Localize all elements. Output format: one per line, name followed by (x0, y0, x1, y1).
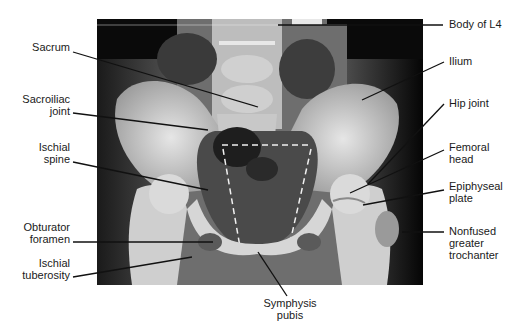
label-ischial-spine: Ischial spine (10, 141, 70, 165)
label-obturator-foramen: Obturator foramen (10, 221, 70, 245)
label-text-line2: joint (10, 105, 70, 117)
label-ilium: Ilium (449, 55, 472, 67)
label-text: Sacrum (32, 41, 70, 53)
label-text-line2: plate (449, 192, 503, 204)
label-text-line2: spine (10, 153, 70, 165)
label-text-line1: Obturator (10, 221, 70, 233)
label-text-line1: Femoral (449, 141, 489, 153)
label-text-line2: head (449, 153, 489, 165)
label-text-line1: Ischial (10, 257, 70, 269)
label-epiphyseal-plate: Epiphyseal plate (449, 180, 503, 204)
label-text-line1: Epiphyseal (449, 180, 503, 192)
pelvis-radiograph (97, 19, 423, 285)
label-text: Hip joint (449, 97, 489, 109)
label-text: Body of L4 (449, 18, 502, 30)
label-hip-joint: Hip joint (449, 97, 489, 109)
label-ischial-tuberosity: Ischial tuberosity (10, 257, 70, 281)
label-text-line2: pubis (250, 309, 330, 321)
label-sacroiliac-joint: Sacroiliac joint (10, 93, 70, 117)
label-femoral-head: Femoral head (449, 141, 489, 165)
label-text: Ilium (449, 55, 472, 67)
label-text-line2: greater (449, 237, 499, 249)
label-sacrum: Sacrum (20, 41, 70, 53)
label-text-line3: trochanter (449, 249, 499, 261)
label-body-of-l4: Body of L4 (449, 18, 502, 30)
label-nonfused-greater-trochanter: Nonfused greater trochanter (449, 225, 499, 261)
label-symphysis-pubis: Symphysis pubis (250, 297, 330, 321)
label-text-line1: Nonfused (449, 225, 499, 237)
radiograph-graphic (97, 19, 423, 285)
label-text-line1: Ischial (10, 141, 70, 153)
label-text-line1: Symphysis (250, 297, 330, 309)
label-text-line2: foramen (10, 233, 70, 245)
label-text-line2: tuberosity (10, 269, 70, 281)
label-text-line1: Sacroiliac (10, 93, 70, 105)
